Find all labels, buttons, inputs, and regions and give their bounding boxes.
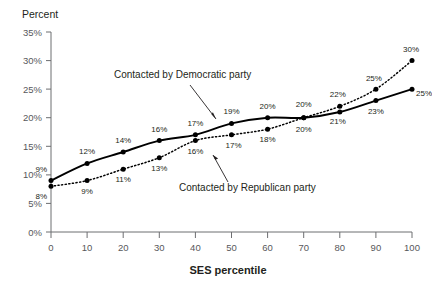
annotation-republican: Contacted by Republican party [179, 155, 316, 193]
data-point-marker [193, 132, 198, 137]
data-point-label: 11% [115, 175, 130, 184]
x-axis-ticks: 0 10 20 30 40 50 60 70 80 90 100 [48, 232, 420, 253]
y-axis-ticks: 35% 30% 25% 20% 15% 10% 5% 0% [23, 27, 51, 238]
data-point-label: 13% [151, 164, 167, 173]
data-point-label: 23% [368, 107, 384, 116]
data-point-marker [49, 178, 54, 183]
ses-percentile-line-chart: Percent 35% 30% 25% 20% 15% 10% 5% 0% [0, 0, 432, 288]
arrowhead-icon [213, 155, 218, 160]
x-tick-label-0: 0 [48, 242, 53, 253]
data-point-marker [373, 87, 378, 92]
data-point-marker [229, 132, 234, 137]
data-point-label: 16% [187, 147, 203, 156]
x-tick-label-60: 60 [262, 242, 273, 253]
data-point-marker [229, 121, 234, 126]
data-point-label: 8% [35, 192, 47, 201]
chart-container: Percent 35% 30% 25% 20% 15% 10% 5% 0% [0, 0, 432, 288]
x-tick-label-90: 90 [371, 242, 382, 253]
data-point-label: 20% [296, 100, 312, 109]
data-point-marker [265, 127, 270, 132]
x-tick-label-100: 100 [404, 242, 420, 253]
data-point-marker [121, 167, 126, 172]
data-point-marker [157, 138, 162, 143]
x-tick-label-40: 40 [190, 242, 201, 253]
data-point-label: 22% [330, 90, 346, 99]
y-tick-label-20: 20% [23, 112, 43, 123]
x-tick-label-50: 50 [226, 242, 237, 253]
data-point-label: 30% [403, 45, 419, 54]
y-tick-label-30: 30% [23, 55, 43, 66]
data-point-marker [337, 110, 342, 115]
data-point-label: 17% [225, 141, 241, 150]
data-point-marker [49, 184, 54, 189]
data-point-label: 9% [81, 187, 93, 196]
data-point-label: 9% [35, 165, 47, 174]
x-axis-title: SES percentile [189, 264, 266, 276]
data-point-marker [85, 161, 90, 166]
data-point-label: 25% [366, 74, 382, 83]
x-tick-label-70: 70 [298, 242, 309, 253]
x-tick-label-30: 30 [154, 242, 165, 253]
data-point-marker [193, 138, 198, 143]
data-point-label: 19% [223, 107, 239, 116]
annotation-democratic-label: Contacted by Democratic party [114, 69, 251, 80]
data-point-marker [410, 87, 415, 92]
data-point-marker [157, 155, 162, 160]
y-tick-label-25: 25% [23, 84, 43, 95]
data-point-marker [85, 178, 90, 183]
data-point-marker [121, 150, 126, 155]
data-point-marker [301, 115, 306, 120]
annotation-republican-label: Contacted by Republican party [179, 182, 316, 193]
data-point-marker [265, 115, 270, 120]
data-point-label: 25% [416, 89, 432, 98]
data-point-label: 16% [151, 125, 167, 134]
data-point-label: 21% [330, 117, 346, 126]
data-point-label: 17% [187, 119, 203, 128]
data-point-label: 14% [115, 136, 131, 145]
y-axis-title: Percent [22, 8, 58, 20]
x-tick-label-20: 20 [118, 242, 129, 253]
data-point-marker [373, 98, 378, 103]
data-point-marker [410, 58, 415, 63]
data-point-label: 20% [260, 102, 276, 111]
x-tick-label-10: 10 [82, 242, 93, 253]
x-tick-label-80: 80 [335, 242, 346, 253]
y-tick-label-35: 35% [23, 27, 43, 38]
data-point-label: 20% [296, 125, 312, 134]
data-point-label: 12% [79, 147, 95, 156]
data-point-label: 18% [260, 135, 276, 144]
y-tick-label-0: 0% [28, 227, 42, 238]
y-tick-label-15: 15% [23, 141, 43, 152]
data-point-marker [337, 104, 342, 109]
